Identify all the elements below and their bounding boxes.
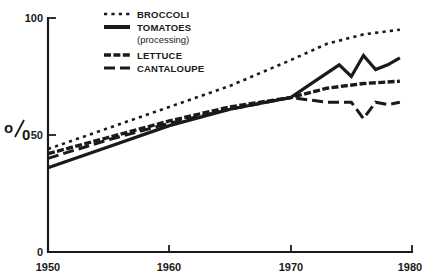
legend-label-lettuce: LETTUCE	[137, 50, 182, 61]
line-chart: 100 50 0 o 0 1950 1960 1970 1980 B	[0, 0, 422, 275]
y-axis-title-denominator: 0	[22, 126, 30, 143]
legend-label-tomatoes: TOMATOES	[137, 22, 191, 33]
y-axis-label-50: 50	[31, 129, 43, 141]
chart-legend: BROCCOLI TOMATOES (processing) LETTUCE C…	[104, 9, 204, 74]
series-line-tomatoes	[48, 55, 400, 167]
x-axis-label-1950: 1950	[36, 261, 60, 273]
series-group	[48, 30, 400, 168]
y-axis-title: o 0	[4, 119, 30, 143]
chart-container: 100 50 0 o 0 1950 1960 1970 1980 B	[0, 0, 422, 275]
x-axis-label-1960: 1960	[157, 261, 181, 273]
x-axis-tick-labels: 1950 1960 1970 1980	[36, 261, 422, 273]
series-line-broccoli	[48, 30, 400, 149]
legend-item-tomatoes[interactable]: TOMATOES (processing)	[104, 22, 191, 45]
legend-item-cantaloupe[interactable]: CANTALOUPE	[104, 63, 204, 74]
legend-item-lettuce[interactable]: LETTUCE	[104, 50, 182, 61]
chart-axes	[48, 18, 412, 252]
legend-sublabel-tomatoes: (processing)	[137, 34, 189, 45]
legend-label-cantaloupe: CANTALOUPE	[137, 63, 204, 74]
y-axis-label-0: 0	[37, 246, 43, 258]
x-axis-label-1970: 1970	[279, 261, 303, 273]
y-axis-title-numerator: o	[4, 119, 13, 136]
x-axis-label-1980: 1980	[398, 261, 422, 273]
legend-item-broccoli[interactable]: BROCCOLI	[104, 9, 189, 20]
y-axis-label-100: 100	[25, 12, 43, 24]
legend-label-broccoli: BROCCOLI	[137, 9, 189, 20]
axis-lines	[48, 18, 412, 252]
